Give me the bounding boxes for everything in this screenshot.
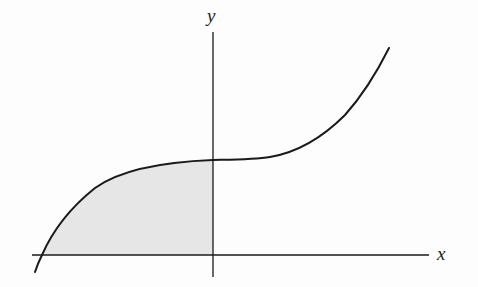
- shaded-area: [42, 160, 213, 255]
- y-axis-label: y: [207, 6, 215, 25]
- x-axis-label: x: [437, 244, 445, 263]
- graph-figure: y x: [0, 0, 478, 287]
- graph-svg: [0, 0, 478, 287]
